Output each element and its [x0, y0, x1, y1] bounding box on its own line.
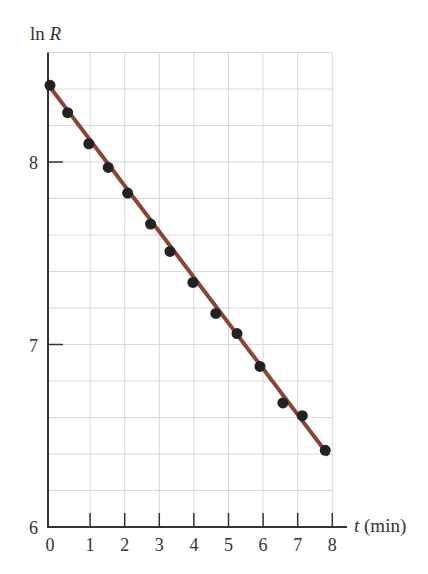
- data-point: [210, 308, 221, 319]
- data-point: [320, 445, 331, 456]
- data-point: [297, 410, 308, 421]
- x-tick-label: 7: [293, 535, 302, 555]
- data-point: [83, 138, 94, 149]
- tick-labels: 012345678678: [29, 153, 337, 555]
- x-tick-label: 8: [328, 535, 337, 555]
- data-point: [254, 361, 265, 372]
- data-point: [164, 246, 175, 257]
- x-tick-label: 0: [46, 535, 55, 555]
- x-tick-label: 6: [259, 535, 268, 555]
- data-point: [145, 219, 156, 230]
- y-axis-label: ln R: [30, 23, 62, 44]
- data-point: [45, 80, 56, 91]
- x-axis-label: t (min): [354, 515, 406, 537]
- chart: 012345678678 ln R t (min): [0, 0, 428, 574]
- x-tick-label: 4: [189, 535, 198, 555]
- x-tick-label: 1: [86, 535, 95, 555]
- data-point: [187, 277, 198, 288]
- x-tick-label: 2: [120, 535, 129, 555]
- y-tick-label: 8: [29, 153, 38, 173]
- axes: [47, 53, 347, 529]
- data-point: [62, 107, 73, 118]
- data-point: [232, 328, 243, 339]
- data-point: [122, 188, 133, 199]
- x-tick-label: 5: [224, 535, 233, 555]
- grid-lines: [48, 53, 332, 528]
- y-tick-label: 7: [29, 336, 38, 356]
- x-tick-label: 3: [155, 535, 164, 555]
- y-tick-label: 6: [29, 518, 38, 538]
- data-point: [103, 162, 114, 173]
- data-point: [277, 397, 288, 408]
